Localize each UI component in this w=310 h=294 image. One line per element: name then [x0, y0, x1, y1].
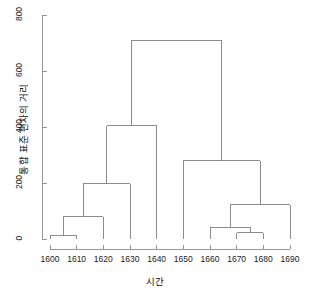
dendrogram-link — [107, 126, 157, 239]
x-tick-label: 1640 — [142, 254, 172, 264]
axes-group — [42, 15, 290, 249]
x-tick-label: 1650 — [168, 254, 198, 264]
y-axis-title: 통합 표준 편차의 거리 — [16, 59, 30, 199]
x-tick-label: 1600 — [35, 254, 65, 264]
x-tick-label: 1620 — [88, 254, 118, 264]
y-tick-label: 0 — [14, 219, 24, 257]
dendrogram-link — [50, 236, 77, 239]
x-axis-title: 시간 — [105, 274, 205, 288]
dendrogram-link — [83, 184, 130, 239]
dendrogram-plot-area — [0, 0, 310, 294]
x-tick-label: 1630 — [115, 254, 145, 264]
dendrogram-tree — [50, 40, 290, 239]
dendrogram-chart: 0200400600800 16001610162016301640165016… — [0, 0, 310, 294]
x-tick-label: 1610 — [62, 254, 92, 264]
dendrogram-link — [230, 205, 290, 239]
dendrogram-link — [237, 233, 264, 239]
x-tick-label: 1680 — [248, 254, 278, 264]
x-tick-label: 1690 — [275, 254, 305, 264]
y-tick-label: 800 — [14, 0, 24, 33]
x-tick-label: 1670 — [222, 254, 252, 264]
dendrogram-link — [132, 40, 222, 160]
x-tick-label: 1660 — [195, 254, 225, 264]
